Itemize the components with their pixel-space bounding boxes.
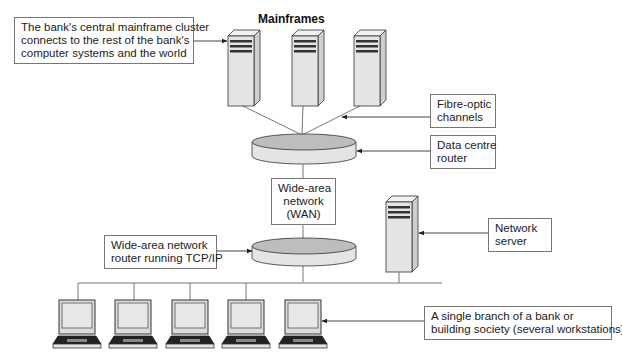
label-line: router running TCP/IP — [111, 252, 210, 265]
wan-label: Wide-area network (WAN) — [271, 178, 336, 225]
label-line: Data centre — [437, 139, 489, 152]
mainframe-1 — [228, 30, 260, 106]
mainframe-links — [241, 104, 364, 135]
network-server — [386, 196, 418, 272]
label-line: Fibre-optic — [437, 98, 489, 111]
wan-router-label: Wide-area network router running TCP/IP — [104, 235, 217, 269]
label-line: connects to the rest of the bank's — [21, 34, 187, 47]
mainframe-3 — [354, 30, 386, 106]
label-line: Wide-area — [278, 182, 329, 195]
data-centre-router-label: Data centre router — [430, 135, 496, 169]
diagram-title: Mainframes — [258, 12, 325, 26]
branch-label: A single branch of a bank or building so… — [424, 306, 612, 340]
workstation-2 — [109, 300, 157, 348]
mainframe-cluster-label: The bank's central mainframe cluster con… — [14, 17, 194, 64]
label-line: A single branch of a bank or — [431, 310, 605, 323]
workstation-3 — [166, 300, 214, 348]
workstation-5 — [279, 300, 327, 348]
label-line: (WAN) — [278, 208, 329, 221]
lan-bus — [78, 283, 442, 300]
label-line: building society (several workstations) — [431, 323, 605, 336]
label-line: router — [437, 152, 489, 165]
label-line: channels — [437, 111, 489, 124]
label-line: network — [278, 195, 329, 208]
mainframe-2 — [292, 30, 324, 106]
label-line: The bank's central mainframe cluster — [21, 21, 187, 34]
network-server-label: Network server — [488, 218, 552, 252]
label-line: Wide-area network — [111, 239, 210, 252]
label-line: Network — [495, 222, 545, 235]
fibre-optic-label: Fibre-optic channels — [430, 94, 496, 128]
label-line: server — [495, 235, 545, 248]
label-line: computer systems and the world — [21, 47, 187, 60]
data-centre-router — [252, 134, 356, 164]
workstation-1 — [53, 300, 101, 348]
wan-router — [252, 238, 356, 266]
workstation-4 — [222, 300, 270, 348]
